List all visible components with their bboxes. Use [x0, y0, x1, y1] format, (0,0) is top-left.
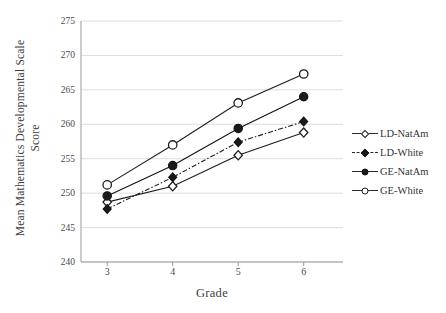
legend-symbol	[362, 187, 369, 194]
legend-marker-circle-filled-icon	[352, 165, 378, 179]
legend-label: GE-NatAm	[378, 166, 428, 177]
legend-label: LD-White	[378, 147, 423, 158]
legend-item-ld-white[interactable]: LD-White	[352, 143, 428, 162]
x-axis-title: Grade	[81, 286, 343, 301]
chart-legend: LD-NatAmLD-WhiteGE-NatAmGE-White	[352, 124, 428, 200]
legend-symbol	[361, 129, 369, 137]
legend-label: GE-White	[378, 185, 423, 196]
legend-symbol	[362, 168, 369, 175]
gridlines	[81, 21, 343, 262]
legend-item-ge-natam[interactable]: GE-NatAm	[352, 162, 428, 181]
x-tick-marks	[107, 262, 304, 266]
legend-marker-diamond-filled-icon	[352, 146, 378, 160]
legend-item-ge-white[interactable]: GE-White	[352, 181, 428, 200]
legend-label: LD-NatAm	[378, 128, 428, 139]
legend-item-ld-natam[interactable]: LD-NatAm	[352, 124, 428, 143]
legend-marker-diamond-open-icon	[352, 127, 378, 141]
legend-marker-circle-open-icon	[352, 184, 378, 198]
axis-lines	[81, 21, 343, 262]
chart-figure: Mean Mathematics Developmental Scale Sco…	[0, 0, 446, 313]
legend-symbol	[361, 148, 369, 156]
series-lines	[107, 74, 304, 209]
